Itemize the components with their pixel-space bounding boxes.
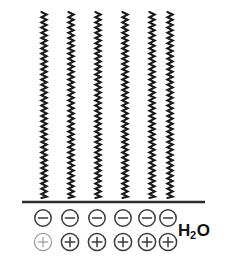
- sam-monolayer-figure: H2O: [0, 0, 232, 271]
- positive-charge-icon-2: [61, 233, 78, 250]
- water-label-subscript: 2: [190, 229, 196, 241]
- negative-charge-icon-4: [115, 210, 131, 226]
- hydrocarbon-chains-group: [41, 12, 172, 198]
- negative-charge-icon-6: [160, 210, 176, 226]
- hydrocarbon-chain-3: [95, 12, 100, 198]
- positive-charge-icon-5: [138, 233, 155, 250]
- positive-charge-icon-3: [88, 233, 105, 250]
- hydrocarbon-chain-1: [41, 12, 46, 198]
- negative-charge-row: [35, 210, 176, 226]
- hydrocarbon-chain-5: [149, 12, 154, 198]
- positive-charge-icon-4: [114, 233, 131, 250]
- water-label-h: H: [178, 221, 190, 240]
- negative-charge-icon-1: [35, 210, 51, 226]
- positive-charge-row: [34, 233, 176, 250]
- positive-charge-icon-1: [34, 233, 51, 250]
- hydrocarbon-chain-2: [68, 12, 73, 198]
- water-label: H2O: [178, 222, 210, 239]
- hydrocarbon-chain-6: [167, 12, 172, 198]
- water-label-o: O: [197, 221, 210, 240]
- positive-charge-icon-6: [159, 233, 176, 250]
- hydrocarbon-chain-4: [122, 12, 127, 198]
- negative-charge-icon-5: [139, 210, 155, 226]
- negative-charge-icon-3: [89, 210, 105, 226]
- negative-charge-icon-2: [62, 210, 78, 226]
